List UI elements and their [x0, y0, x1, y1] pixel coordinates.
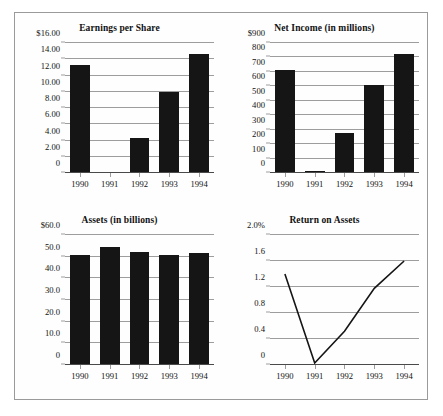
- bar: [70, 65, 90, 173]
- x-axis-label-text: 1990: [71, 179, 88, 189]
- y-axis-tick-label: 0: [56, 158, 60, 168]
- x-axis-label-text: 1994: [395, 179, 412, 189]
- y-axis-tick-label: 700: [252, 57, 265, 67]
- y-axis-tick-label: 600: [252, 71, 265, 81]
- x-axis-tick-label: 1990: [270, 173, 300, 189]
- chart-earnings-per-share: Earnings per Share 02.004.006.008.0010.0…: [17, 17, 222, 207]
- y-axis-tick-label: 12.00: [41, 61, 60, 71]
- x-axis-tick: [139, 173, 140, 177]
- bar: [100, 247, 120, 365]
- plot-area: 010.020.030.040.050.0$60.0 1990199119921…: [65, 235, 214, 365]
- x-axis-tick-label: 1990: [65, 365, 95, 381]
- plot-area: 0100200300400500600700800$900 1990199119…: [270, 43, 419, 173]
- x-axis-tick: [199, 173, 200, 177]
- bar-cell: [125, 235, 155, 365]
- y-axis-tick-label: 20.0: [45, 307, 60, 317]
- x-axis-label-text: 1992: [336, 371, 353, 381]
- bar: [394, 54, 414, 173]
- y-axis-tick-label: 1.6: [254, 246, 265, 256]
- y-axis-tick-label: 0: [261, 158, 265, 168]
- x-axis-tick: [80, 365, 81, 369]
- y-axis-tick-label: 50.0: [45, 242, 60, 252]
- y-axis-tick-label: 10.00: [41, 77, 60, 87]
- bar-series: [65, 43, 214, 173]
- y-axis-tick-label: 200: [252, 129, 265, 139]
- y-axis-tick-label: 8.00: [45, 93, 60, 103]
- x-axis-tick: [374, 173, 375, 177]
- x-axis-label-text: 1990: [276, 371, 293, 381]
- y-axis-tick-label: 40.0: [45, 263, 60, 273]
- y-axis-tick-label: 30.0: [45, 285, 60, 295]
- y-axis-tick-label: 2.00: [45, 142, 60, 152]
- y-axis-tick-label: 0.4: [254, 324, 265, 334]
- x-axis-tick: [139, 365, 140, 369]
- x-axis-label-text: 1993: [366, 371, 383, 381]
- x-axis-tick-label: 1992: [330, 365, 360, 381]
- bar: [364, 85, 384, 173]
- x-axis-label-text: 1994: [395, 371, 412, 381]
- x-axis-tick-label: 1993: [154, 173, 184, 189]
- x-axis-label-text: 1991: [101, 179, 118, 189]
- x-axis-label-text: 1994: [190, 371, 207, 381]
- line-series: [270, 235, 419, 365]
- x-axis-tick-label: 1991: [95, 173, 125, 189]
- x-axis-label-text: 1992: [131, 371, 148, 381]
- bar-cell: [184, 43, 214, 173]
- x-axis-tick-label: 1991: [300, 365, 330, 381]
- bar-cell: [330, 43, 360, 173]
- bar-cell: [154, 235, 184, 365]
- x-axis-label-text: 1990: [71, 371, 88, 381]
- x-axis-tick-label: 1993: [359, 173, 389, 189]
- x-axis-tick: [285, 365, 286, 369]
- x-axis-tick: [199, 365, 200, 369]
- y-axis-tick-label: 0: [261, 350, 265, 360]
- x-axis-tick-label: 1994: [389, 173, 419, 189]
- y-axis-tick-label: 0: [56, 350, 60, 360]
- x-axis-tick: [404, 173, 405, 177]
- bar-cell: [125, 43, 155, 173]
- y-axis-tick-label: $16.00: [36, 28, 60, 38]
- x-axis-label-text: 1991: [306, 179, 323, 189]
- plot-area: 00.40.81.21.62.0% 19901991199219931994: [270, 235, 419, 365]
- bar-cell: [154, 43, 184, 173]
- x-axis-tick-label: 1992: [125, 365, 155, 381]
- y-axis-tick-label: $900: [248, 28, 265, 38]
- line-path: [285, 261, 404, 363]
- x-axis-tick: [169, 173, 170, 177]
- x-axis-tick: [110, 365, 111, 369]
- bar: [159, 92, 179, 173]
- bar: [275, 70, 295, 173]
- y-axis-tick-label: 10.0: [45, 328, 60, 338]
- y-axis-tick-label: 300: [252, 115, 265, 125]
- y-axis-tick-label: 14.00: [41, 44, 60, 54]
- bar-cell: [95, 43, 125, 173]
- x-axis-tick: [169, 365, 170, 369]
- y-axis-tick-label: 1.2: [254, 272, 265, 282]
- bar: [130, 138, 150, 173]
- x-axis-tick: [374, 365, 375, 369]
- x-axis-labels: 19901991199219931994: [270, 365, 419, 381]
- x-axis-tick: [80, 173, 81, 177]
- x-axis-tick: [344, 173, 345, 177]
- x-axis-tick: [344, 365, 345, 369]
- x-axis-label-text: 1990: [276, 179, 293, 189]
- bar-cell: [300, 43, 330, 173]
- y-axis-tick-label: 500: [252, 86, 265, 96]
- x-axis-tick-label: 1991: [300, 173, 330, 189]
- bar-cell: [184, 235, 214, 365]
- bar: [189, 253, 209, 365]
- x-axis-tick-label: 1994: [184, 365, 214, 381]
- x-axis-tick: [285, 173, 286, 177]
- bar-cell: [389, 43, 419, 173]
- y-axis-tick-label: 6.00: [45, 109, 60, 119]
- chart-return-on-assets: Return on Assets 00.40.81.21.62.0% 19901…: [222, 209, 427, 399]
- plot-area: 02.004.006.008.0010.0012.0014.00$16.00 1…: [65, 43, 214, 173]
- bar: [189, 54, 209, 173]
- x-axis-tick-label: 1990: [270, 365, 300, 381]
- bar-cell: [65, 235, 95, 365]
- y-axis-tick-label: 2.0%: [247, 220, 265, 230]
- y-axis-tick-label: 400: [252, 100, 265, 110]
- bar: [159, 255, 179, 366]
- x-axis-label-text: 1993: [366, 179, 383, 189]
- x-axis-label-text: 1992: [131, 179, 148, 189]
